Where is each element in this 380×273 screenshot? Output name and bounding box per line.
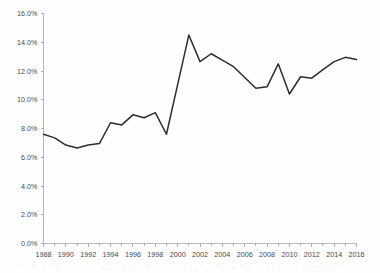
y-tick-label: 16.0% <box>17 9 38 18</box>
noise-speck <box>49 268 52 269</box>
noise-speck <box>93 266 96 267</box>
noise-speck <box>29 262 30 263</box>
x-tick-label: 1996 <box>125 250 141 259</box>
noise-speck <box>149 267 152 268</box>
noise-speck <box>228 267 229 268</box>
noise-speck <box>349 268 350 269</box>
noise-speck <box>249 267 251 268</box>
x-tick-label: 1992 <box>80 250 96 259</box>
noise-speck <box>253 263 255 264</box>
x-tick-label: 2002 <box>192 250 208 259</box>
noise-speck <box>320 270 323 271</box>
noise-speck <box>344 268 346 269</box>
y-tick-label: 4.0% <box>21 182 38 191</box>
noise-speck <box>273 267 274 268</box>
noise-speck <box>218 266 219 267</box>
noise-speck <box>87 269 88 270</box>
noise-speck <box>311 263 312 264</box>
noise-speck <box>73 267 75 268</box>
noise-speck <box>202 264 203 265</box>
line-chart-figure: 0.0%2.0%4.0%6.0%8.0%10.0%12.0%14.0%16.0%… <box>0 0 380 273</box>
noise-speck <box>20 265 21 266</box>
noise-speck <box>151 262 152 263</box>
noise-speck <box>248 266 250 267</box>
noise-speck <box>232 269 235 270</box>
noise-speck <box>327 264 328 265</box>
noise-speck <box>56 269 58 270</box>
noise-speck <box>226 266 228 267</box>
noise-speck <box>44 267 47 268</box>
noise-speck <box>35 266 36 267</box>
noise-speck <box>278 268 281 269</box>
noise-speck <box>122 268 124 269</box>
noise-speck <box>309 267 310 268</box>
y-tick-label: 8.0% <box>21 124 38 133</box>
noise-speck <box>52 264 53 265</box>
chart-background <box>0 0 380 273</box>
noise-speck <box>323 268 325 269</box>
x-tick-label: 1990 <box>58 250 74 259</box>
noise-speck <box>53 265 55 266</box>
noise-speck <box>74 264 75 265</box>
noise-speck <box>309 270 310 271</box>
noise-speck <box>207 263 209 264</box>
noise-speck <box>127 269 129 270</box>
noise-speck <box>336 267 338 268</box>
noise-speck <box>304 266 305 267</box>
x-tick-label: 2000 <box>170 250 186 259</box>
noise-speck <box>232 266 235 267</box>
noise-speck <box>289 266 290 267</box>
noise-speck <box>226 266 227 267</box>
noise-speck <box>201 263 203 264</box>
x-tick-label: 2008 <box>259 250 275 259</box>
noise-speck <box>152 267 153 268</box>
noise-speck <box>55 264 58 265</box>
noise-speck <box>242 266 245 267</box>
noise-speck <box>349 267 350 268</box>
noise-speck <box>33 262 35 263</box>
noise-speck <box>209 266 210 267</box>
y-tick-label: 10.0% <box>17 95 38 104</box>
noise-speck <box>184 265 187 266</box>
noise-speck <box>269 263 272 264</box>
noise-speck <box>244 270 245 271</box>
noise-speck <box>189 266 192 267</box>
noise-speck <box>262 265 263 266</box>
noise-speck <box>234 268 236 269</box>
noise-speck <box>340 266 343 267</box>
noise-speck <box>146 264 149 265</box>
noise-speck <box>23 263 24 264</box>
y-tick-label: 12.0% <box>17 67 38 76</box>
noise-speck <box>113 268 116 269</box>
noise-speck <box>329 269 331 270</box>
noise-speck <box>45 270 46 271</box>
noise-speck <box>237 267 238 268</box>
noise-speck <box>240 266 241 267</box>
noise-speck <box>32 265 35 266</box>
noise-speck <box>106 270 107 271</box>
y-tick-label: 0.0% <box>21 239 38 248</box>
noise-speck <box>155 262 156 263</box>
noise-speck <box>54 263 55 264</box>
noise-speck <box>214 267 216 268</box>
noise-speck <box>146 266 147 267</box>
y-tick-label: 14.0% <box>17 38 38 47</box>
noise-speck <box>176 263 179 264</box>
x-tick-label: 1998 <box>147 250 163 259</box>
x-tick-label: 1994 <box>103 250 119 259</box>
noise-speck <box>137 264 139 265</box>
noise-speck <box>332 268 334 269</box>
noise-speck <box>334 266 335 267</box>
noise-speck <box>122 269 125 270</box>
x-tick-label: 2016 <box>349 250 365 259</box>
noise-speck <box>207 268 209 269</box>
noise-speck <box>327 267 328 268</box>
noise-speck <box>315 267 318 268</box>
noise-speck <box>71 267 72 268</box>
noise-speck <box>125 263 126 264</box>
noise-speck <box>348 263 350 264</box>
noise-speck <box>131 265 134 266</box>
noise-speck <box>305 269 308 270</box>
noise-speck <box>315 265 317 266</box>
noise-speck <box>116 262 119 263</box>
